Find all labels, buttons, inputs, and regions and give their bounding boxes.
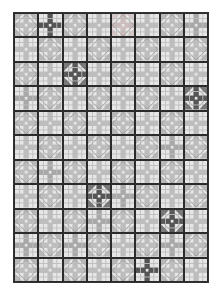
quilt-block-pattern-icon: [88, 234, 110, 256]
quilt-block-xpink: [111, 13, 135, 37]
quilt-block-plaid: [38, 258, 62, 282]
quilt-block-pattern-icon: [39, 14, 61, 36]
quilt-block-pattern-icon: [136, 63, 158, 85]
quilt-block-cross: [14, 233, 38, 257]
quilt-block-x: [63, 111, 87, 135]
quilt-block-plaid: [87, 111, 111, 135]
quilt-block-x: [87, 135, 111, 159]
quilt-block-x: [184, 184, 208, 208]
quilt-block-pattern-icon: [64, 136, 86, 158]
quilt-block-x: [63, 209, 87, 233]
quilt-block-pattern-icon: [88, 87, 110, 109]
quilt-block-pattern-icon: [161, 87, 183, 109]
quilt-block-x: [135, 233, 159, 257]
quilt-block-x: [38, 184, 62, 208]
quilt-block-pattern-icon: [161, 185, 183, 207]
quilt-block-pattern-icon: [39, 185, 61, 207]
quilt-block-plaid: [87, 160, 111, 184]
quilt-block-x: [87, 86, 111, 110]
quilt-block-x: [63, 13, 87, 37]
quilt-block-pattern-icon: [112, 259, 134, 281]
quilt-block-pattern-icon: [161, 112, 183, 134]
quilt-block-pattern-icon: [161, 136, 183, 158]
quilt-block-plaid: [160, 86, 184, 110]
quilt-block-x: [63, 258, 87, 282]
quilt-block-pattern-icon: [64, 87, 86, 109]
quilt-block-pattern-icon: [15, 87, 37, 109]
quilt-block-pattern-icon: [64, 14, 86, 36]
quilt-block-x: [14, 111, 38, 135]
quilt-block-x: [135, 135, 159, 159]
quilt-block-plaid: [160, 184, 184, 208]
quilt-block-pattern-icon: [15, 136, 37, 158]
quilt-block-pattern-icon: [15, 259, 37, 281]
quilt-block-x: [160, 111, 184, 135]
quilt-block-plaid: [111, 135, 135, 159]
quilt-block-cross: [14, 86, 38, 110]
quilt-block-pattern-icon: [185, 14, 207, 36]
quilt-block-cross: [184, 13, 208, 37]
quilt-block-pattern-icon: [64, 185, 86, 207]
quilt-block-pattern-icon: [136, 87, 158, 109]
quilt-block-pattern-icon: [39, 259, 61, 281]
quilt-block-x: [14, 209, 38, 233]
quilt-block-pattern-icon: [112, 161, 134, 183]
quilt-block-pattern-icon: [136, 14, 158, 36]
quilt-block-x: [14, 258, 38, 282]
quilt-block-pattern-icon: [88, 14, 110, 36]
quilt-grid: [13, 12, 209, 283]
quilt-block-pattern-icon: [136, 185, 158, 207]
quilt-block-pattern-icon: [185, 234, 207, 256]
quilt-block-pattern-icon: [15, 112, 37, 134]
quilt-block-pattern-icon: [161, 14, 183, 36]
quilt-block-x: [38, 86, 62, 110]
quilt-block-pattern-icon: [64, 38, 86, 60]
quilt-block-x: [111, 160, 135, 184]
quilt-block-plaid: [63, 135, 87, 159]
quilt-block-pattern-icon: [88, 210, 110, 232]
quilt-block-cross: [111, 184, 135, 208]
quilt-block-pattern-icon: [161, 259, 183, 281]
quilt-block-pattern-icon: [88, 136, 110, 158]
quilt-block-pattern-icon: [185, 63, 207, 85]
quilt-block-x: [184, 135, 208, 159]
quilt-block-cross: [87, 209, 111, 233]
quilt-block-plaid: [184, 111, 208, 135]
quilt-block-x: [38, 135, 62, 159]
quilt-block-darkx: [63, 62, 87, 86]
quilt-block-pattern-icon: [39, 161, 61, 183]
quilt-block-pattern-icon: [112, 87, 134, 109]
quilt-block-plaid: [87, 62, 111, 86]
quilt-block-pattern-icon: [112, 63, 134, 85]
quilt-block-pattern-icon: [64, 259, 86, 281]
quilt-block-plaid: [135, 209, 159, 233]
quilt-block-darkx: [160, 209, 184, 233]
quilt-block-pattern-icon: [136, 210, 158, 232]
quilt-block-pattern-icon: [15, 210, 37, 232]
quilt-block-pattern-icon: [161, 161, 183, 183]
quilt-block-x: [87, 37, 111, 61]
quilt-block-pattern-icon: [185, 185, 207, 207]
quilt-block-cross: [160, 233, 184, 257]
quilt-block-x: [184, 37, 208, 61]
quilt-block-pattern-icon: [185, 38, 207, 60]
quilt-block-pattern-icon: [161, 38, 183, 60]
quilt-block-plaid: [87, 13, 111, 37]
quilt-block-plaid: [38, 111, 62, 135]
quilt-block-plaid: [135, 13, 159, 37]
quilt-block-x: [38, 37, 62, 61]
quilt-block-pattern-icon: [39, 210, 61, 232]
quilt-block-pattern-icon: [39, 136, 61, 158]
quilt-block-pattern-icon: [64, 63, 86, 85]
quilt-block-x: [160, 13, 184, 37]
quilt-block-pattern-icon: [64, 161, 86, 183]
quilt-block-pattern-icon: [112, 185, 134, 207]
quilt-block-x: [184, 233, 208, 257]
quilt-block-pattern-icon: [185, 136, 207, 158]
quilt-block-pattern-icon: [185, 112, 207, 134]
quilt-block-pattern-icon: [136, 38, 158, 60]
quilt-block-pattern-icon: [88, 185, 110, 207]
quilt-block-darkx: [184, 86, 208, 110]
quilt-block-x: [111, 209, 135, 233]
quilt-block-pattern-icon: [185, 259, 207, 281]
